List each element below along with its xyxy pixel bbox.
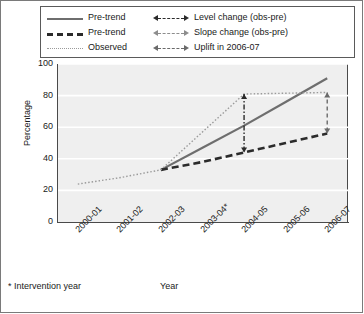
x-tick-label: 2005-06 bbox=[282, 205, 312, 235]
x-tick-label: 2000-01 bbox=[74, 205, 104, 235]
x-tick-label: 2006-07 bbox=[323, 205, 353, 235]
chart-figure: Pre-trend Pre-trend Observed bbox=[0, 0, 364, 314]
x-tick-label: 2001-02 bbox=[115, 205, 145, 235]
x-axis-ticks: 2000-012001-022002-032003-04*2004-052005… bbox=[0, 0, 364, 314]
footnote: * Intervention year bbox=[8, 281, 81, 291]
x-tick-label: 2002-03 bbox=[157, 205, 187, 235]
x-axis-title: Year bbox=[160, 281, 178, 291]
x-tick-label: 2003-04* bbox=[199, 202, 231, 234]
x-tick-label: 2004-05 bbox=[240, 205, 270, 235]
